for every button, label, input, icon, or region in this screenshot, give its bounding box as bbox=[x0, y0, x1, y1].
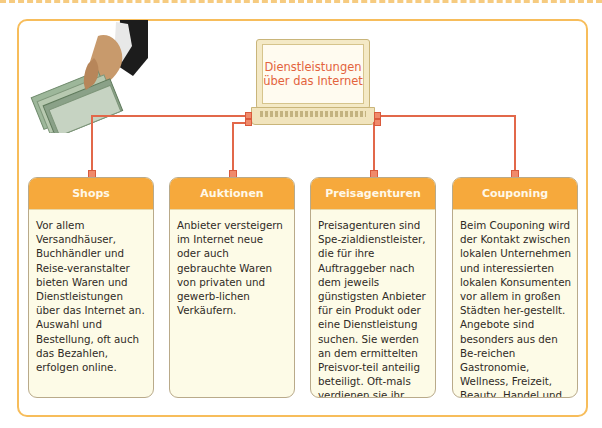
card-title: Shops bbox=[29, 178, 153, 210]
card-title: Preisagenturen bbox=[311, 178, 435, 210]
connector-shops-vertical bbox=[91, 115, 93, 171]
laptop-screen: Dienstleistungen über das Internet bbox=[256, 39, 370, 109]
card-text: Vor allem Versandhäuser, Buchhändler und… bbox=[29, 210, 153, 374]
card-text: Beim Couponing wird der Kontakt zwischen… bbox=[453, 210, 577, 398]
connector-auktionen-vertical bbox=[232, 122, 234, 171]
card-title: Auktionen bbox=[170, 178, 294, 210]
dashed-top-border bbox=[0, 0, 602, 3]
connector-plug bbox=[245, 112, 252, 119]
laptop-keyboard-icon bbox=[251, 107, 375, 125]
connector-preisagenturen-vertical bbox=[373, 122, 375, 171]
card-text: Preisagenturen sind Spe-zialdienstleiste… bbox=[311, 210, 435, 398]
connector-plug bbox=[245, 119, 252, 126]
card-shops: Shops Vor allem Versandhäuser, Buchhändl… bbox=[28, 177, 154, 398]
card-auktionen: Auktionen Anbieter versteigern im Intern… bbox=[169, 177, 295, 398]
card-title: Couponing bbox=[453, 178, 577, 210]
connector-couponing-horizontal bbox=[375, 115, 515, 117]
connector-shops-horizontal bbox=[91, 115, 251, 117]
laptop-central-node: Dienstleistungen über das Internet bbox=[251, 39, 375, 127]
diagram-title: Dienstleistungen über das Internet bbox=[263, 60, 363, 88]
connector-plug bbox=[374, 112, 381, 119]
card-text: Anbieter versteigern im Internet neue od… bbox=[170, 210, 294, 317]
connector-plug bbox=[374, 119, 381, 126]
connector-couponing-vertical bbox=[514, 115, 516, 171]
card-couponing: Couponing Beim Couponing wird der Kontak… bbox=[452, 177, 578, 398]
card-preisagenturen: Preisagenturen Preisagenturen sind Spe-z… bbox=[310, 177, 436, 398]
